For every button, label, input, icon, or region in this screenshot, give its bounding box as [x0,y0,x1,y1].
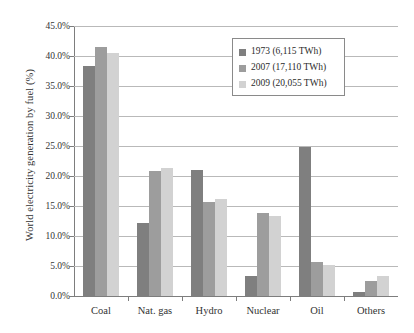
y-axis-tick-label: 10.0% [10,231,70,241]
y-axis-tick-label: 40.0% [10,51,70,61]
x-axis-label: Others [331,305,411,316]
legend-swatch-icon [239,65,246,72]
y-axis-tick-label: 20.0% [10,171,70,181]
y-axis-tick-label: 0.0% [10,291,70,301]
legend-item: 2007 (17,110 TWh) [239,60,338,76]
bar [149,171,161,296]
y-axis-tick-label: 5.0% [10,261,70,271]
bar [95,47,107,296]
y-axis-tick-label: 15.0% [10,201,70,211]
y-axis-tick-label: 30.0% [10,111,70,121]
y-axis-tick-label: 35.0% [10,81,70,91]
legend-item: 2009 (20,055 TWh) [239,76,338,92]
bar [191,170,203,296]
x-axis-tick-mark [290,296,291,301]
legend-label: 1973 (6,115 TWh) [251,47,321,57]
bar-group [344,26,398,296]
bar [365,281,377,296]
bar [353,292,365,296]
bar-group [128,26,182,296]
x-axis-tick-mark [236,296,237,301]
bar-group [74,26,128,296]
y-axis-tick-label: 45.0% [10,21,70,31]
x-axis-tick-mark [182,296,183,301]
legend: 1973 (6,115 TWh)2007 (17,110 TWh)2009 (2… [232,38,345,96]
bar [83,66,95,296]
bar-group [182,26,236,296]
legend-swatch-icon [239,81,246,88]
bar [137,223,149,296]
y-axis-tick-label: 25.0% [10,141,70,151]
bar [377,276,389,296]
legend-label: 2009 (20,055 TWh) [251,79,327,89]
bar [323,265,335,296]
bar [257,213,269,296]
x-axis-tick-mark [128,296,129,301]
x-axis-tick-mark [344,296,345,301]
bar [269,216,281,296]
bar [311,262,323,296]
bar [203,202,215,296]
bar-chart: World electricity generation by fuel (%)… [0,0,414,333]
bar [245,276,257,296]
bar [215,199,227,296]
legend-item: 1973 (6,115 TWh) [239,44,338,60]
bar [161,168,173,296]
bar [107,53,119,296]
legend-swatch-icon [239,49,246,56]
legend-label: 2007 (17,110 TWh) [251,63,326,73]
bar [299,147,311,296]
